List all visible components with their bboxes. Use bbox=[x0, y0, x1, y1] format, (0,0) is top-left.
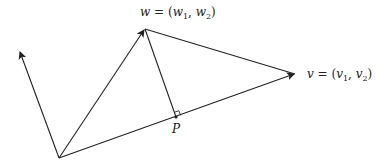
perpendicular-vector-arrow bbox=[20, 52, 59, 158]
label-v: v = (v1, v2) bbox=[307, 67, 372, 83]
segment-w-to-v bbox=[145, 29, 295, 74]
label-w: w = (w1, w2) bbox=[140, 5, 216, 21]
point-P-dot bbox=[174, 115, 177, 118]
projection-diagram: w = (w1, w2) v = (v1, v2) P bbox=[0, 0, 377, 167]
label-P: P bbox=[172, 122, 180, 136]
diagram-svg bbox=[0, 0, 377, 167]
segment-w-to-P bbox=[145, 29, 176, 117]
vector-w-arrow bbox=[59, 30, 144, 158]
